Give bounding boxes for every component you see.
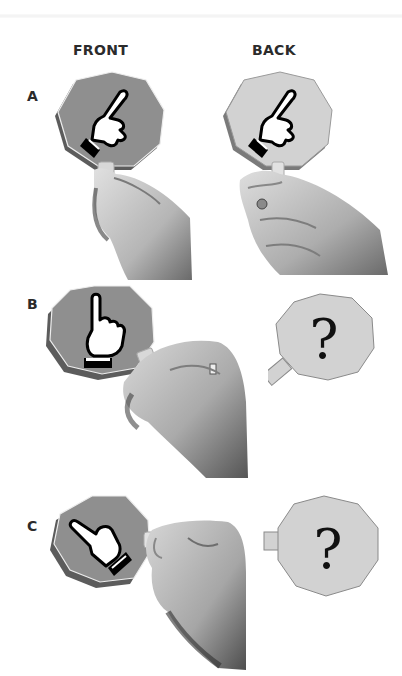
column-header-back: BACK	[252, 42, 296, 58]
ring	[257, 199, 267, 209]
row-label-a: A	[27, 88, 38, 104]
row-b-back-figure: ?	[268, 292, 388, 402]
row-label-c: C	[27, 518, 37, 534]
row-a-back-figure	[220, 70, 402, 280]
hand	[94, 168, 192, 280]
question-mark-icon: ?	[314, 518, 343, 581]
row-label-b: B	[27, 296, 38, 312]
hand	[123, 341, 248, 478]
row-c-back-figure: ?	[262, 494, 392, 610]
top-rule	[0, 14, 402, 18]
row-c-front-figure	[48, 492, 258, 676]
row-a-front-figure	[50, 70, 210, 280]
column-header-front: FRONT	[73, 42, 128, 58]
row-b-front-figure	[40, 282, 255, 482]
question-mark-icon: ?	[310, 308, 339, 371]
